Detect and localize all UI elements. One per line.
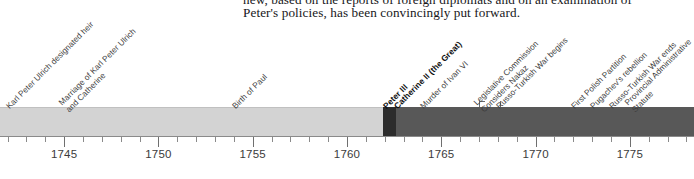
minor-tick-1748 (121, 137, 122, 142)
minor-tick-1774 (611, 137, 612, 142)
minor-tick-1763 (404, 137, 405, 142)
major-tick-1760 (347, 137, 348, 147)
tick-label-1770: 1770 (522, 148, 548, 160)
minor-tick-1777 (668, 137, 669, 142)
major-tick-1750 (158, 137, 159, 147)
minor-tick-1743 (26, 137, 27, 142)
event-label-line: Birth of Paul (230, 72, 268, 110)
minor-tick-1753 (215, 137, 216, 142)
reign-bar-peter-iii (383, 107, 396, 136)
event-label-legislative-commission-considers-nakaz: Legislative CommissionConsiders Nakaz (472, 39, 547, 114)
minor-tick-1759 (328, 137, 329, 142)
minor-tick-1751 (177, 137, 178, 142)
major-tick-1770 (536, 137, 537, 147)
event-label-birth-of-paul: Birth of Paul (230, 72, 269, 111)
minor-tick-1756 (272, 137, 273, 142)
tick-label-1745: 1745 (51, 148, 77, 160)
minor-tick-1761 (366, 137, 367, 142)
minor-tick-1758 (309, 137, 310, 142)
major-tick-1755 (253, 137, 254, 147)
minor-tick-1767 (479, 137, 480, 142)
timeline-chart: Karl Peter Ulrich designated heirMarriag… (0, 0, 694, 179)
tick-label-1760: 1760 (334, 148, 360, 160)
minor-tick-1766 (460, 137, 461, 142)
minor-tick-1772 (573, 137, 574, 142)
minor-tick-1747 (102, 137, 103, 142)
timeline-figure: new, based on the reports of foreign dip… (0, 0, 694, 179)
tick-label-1750: 1750 (145, 148, 171, 160)
minor-tick-1754 (234, 137, 235, 142)
tick-label-1775: 1775 (617, 148, 643, 160)
minor-tick-1744 (45, 137, 46, 142)
reign-bar-catherine-ii (396, 107, 694, 136)
reign-bar-elizabeth (0, 107, 383, 136)
major-tick-1765 (441, 137, 442, 147)
minor-tick-1749 (140, 137, 141, 142)
minor-tick-1768 (498, 137, 499, 142)
minor-tick-1773 (592, 137, 593, 142)
minor-tick-1762 (385, 137, 386, 142)
major-tick-1775 (630, 137, 631, 147)
minor-tick-1742 (8, 137, 9, 142)
minor-tick-1764 (422, 137, 423, 142)
minor-tick-1771 (554, 137, 555, 142)
major-tick-1745 (64, 137, 65, 147)
minor-tick-1778 (686, 137, 687, 142)
minor-tick-1752 (196, 137, 197, 142)
event-label-provincial-administrative-statute: Provincial AdministrativeStatute (623, 37, 694, 114)
minor-tick-1757 (290, 137, 291, 142)
tick-label-1765: 1765 (428, 148, 454, 160)
event-label-line: Considers Nakaz (479, 46, 547, 114)
minor-tick-1769 (517, 137, 518, 142)
minor-tick-1746 (83, 137, 84, 142)
minor-tick-1776 (649, 137, 650, 142)
tick-label-1755: 1755 (240, 148, 266, 160)
